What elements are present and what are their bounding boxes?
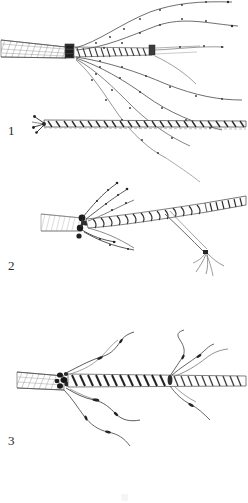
plate-artwork xyxy=(0,0,248,503)
plate-background xyxy=(0,0,248,503)
figure-1-label: 1 xyxy=(8,124,15,137)
figure-2-label: 2 xyxy=(8,259,15,272)
figure-3-label: 3 xyxy=(8,434,15,447)
figure-3-main-axis xyxy=(68,374,246,387)
caption-fragment: ░ xyxy=(121,494,128,501)
illustration-plate: 1 2 3 ░ xyxy=(0,0,248,503)
figure-1-primary-node xyxy=(65,44,74,58)
figure-1-secondary-node xyxy=(149,45,155,55)
figure-3-mid-axis-branch-point xyxy=(168,375,173,385)
